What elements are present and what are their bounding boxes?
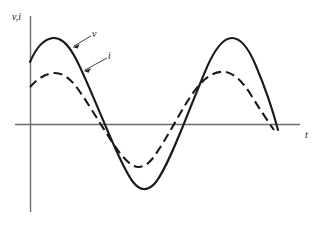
series-label-voltage: v: [92, 29, 96, 39]
voltage-leader: [73, 36, 92, 49]
x-axis-label: t: [305, 130, 308, 140]
current-curve: [30, 72, 274, 167]
current-leader: [84, 58, 108, 73]
waveform-figure: v,i t v i: [0, 0, 328, 226]
voltage-curve: [30, 38, 278, 189]
series-label-current: i: [108, 51, 111, 61]
y-axis-label: v,i: [12, 12, 21, 22]
plot-canvas: [0, 0, 328, 226]
